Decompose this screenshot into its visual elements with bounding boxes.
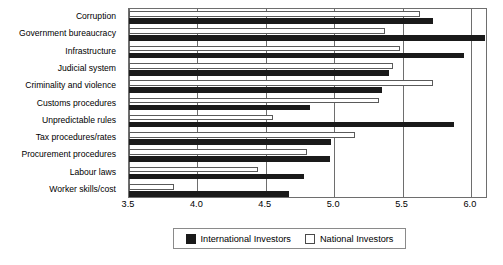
bar-international-investors xyxy=(129,156,330,162)
category-label: Judicial system xyxy=(0,63,116,73)
category-label: Worker skills/cost xyxy=(0,184,116,194)
x-tick-label: 5.0 xyxy=(327,199,340,209)
category-label: Infrastructure xyxy=(0,46,116,56)
bar-group xyxy=(129,130,486,147)
x-tick-label: 6.0 xyxy=(464,199,477,209)
category-label: Criminality and violence xyxy=(0,80,116,90)
bar-group xyxy=(129,78,486,95)
bar-international-investors xyxy=(129,191,289,197)
bar-national-investors xyxy=(129,80,433,86)
x-axis: 3.54.04.55.05.56.0 xyxy=(128,199,487,213)
bar-group xyxy=(129,182,486,199)
x-tick-label: 4.5 xyxy=(258,199,271,209)
category-label: Procurement procedures xyxy=(0,149,116,159)
category-label: Government bureaucracy xyxy=(0,28,116,38)
category-label: Labour laws xyxy=(0,167,116,177)
bar-group xyxy=(129,95,486,112)
bar-national-investors xyxy=(129,63,393,69)
bar-national-investors xyxy=(129,98,379,104)
category-label: Tax procedures/rates xyxy=(0,132,116,142)
category-label: Customs procedures xyxy=(0,98,116,108)
bar-group xyxy=(129,9,486,26)
bar-international-investors xyxy=(129,174,304,180)
bar-international-investors xyxy=(129,87,382,93)
legend-swatch-national-icon xyxy=(305,234,315,244)
bar-international-investors xyxy=(129,35,485,41)
legend-item-national: National Investors xyxy=(305,234,394,244)
bar-group xyxy=(129,61,486,78)
x-tick-label: 3.5 xyxy=(122,199,135,209)
bar-national-investors xyxy=(129,11,420,17)
bar-national-investors xyxy=(129,149,307,155)
category-axis-labels: CorruptionGovernment bureaucracyInfrastr… xyxy=(0,8,122,198)
legend-label-international: International Investors xyxy=(201,234,291,244)
bar-international-investors xyxy=(129,70,389,76)
bar-group xyxy=(129,164,486,181)
bar-national-investors xyxy=(129,132,355,138)
legend-swatch-international-icon xyxy=(186,234,196,244)
chart-legend: International Investors National Investo… xyxy=(173,228,406,249)
bar-national-investors xyxy=(129,167,258,173)
legend-item-international: International Investors xyxy=(186,234,291,244)
bar-national-investors xyxy=(129,184,174,190)
x-tick-label: 4.0 xyxy=(190,199,203,209)
category-label: Corruption xyxy=(0,11,116,21)
bar-international-investors xyxy=(129,105,310,111)
x-tick-label: 5.5 xyxy=(395,199,408,209)
bar-national-investors xyxy=(129,28,385,34)
bar-group xyxy=(129,113,486,130)
category-label: Unpredictable rules xyxy=(0,115,116,125)
bar-group xyxy=(129,44,486,61)
bar-international-investors xyxy=(129,122,454,128)
bar-international-investors xyxy=(129,18,433,24)
bar-chart: CorruptionGovernment bureaucracyInfrastr… xyxy=(0,0,503,265)
plot-area xyxy=(128,8,487,198)
bar-international-investors xyxy=(129,53,464,59)
bar-international-investors xyxy=(129,139,331,145)
bar-national-investors xyxy=(129,115,273,121)
bar-group xyxy=(129,147,486,164)
legend-label-national: National Investors xyxy=(320,234,394,244)
bar-national-investors xyxy=(129,46,400,52)
bar-group xyxy=(129,26,486,43)
